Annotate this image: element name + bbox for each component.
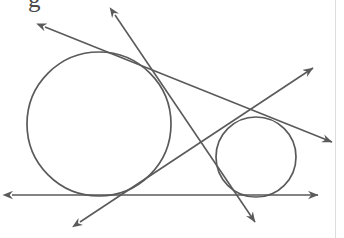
- small-circle: [216, 117, 296, 197]
- large-circle: [27, 52, 171, 196]
- geometry-figure: [0, 0, 344, 238]
- bottom-left-to-upper-right-tangent-line: [80, 68, 313, 222]
- lines-group: [12, 15, 332, 222]
- steep-top-to-bottom-tangent-line: [115, 15, 255, 222]
- diagram-canvas: g: [0, 0, 344, 238]
